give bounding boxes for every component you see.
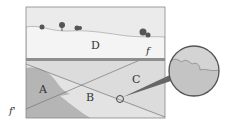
label-c: C [132, 74, 140, 85]
label-b: B [86, 92, 94, 103]
unconformity [26, 58, 165, 61]
label-f-prime: f' [9, 106, 15, 116]
label-a: A [39, 84, 47, 95]
label-f: f [146, 46, 150, 56]
label-d: D [91, 40, 100, 51]
magnifier-icon [169, 46, 219, 96]
cross-section-diagram [0, 0, 232, 127]
